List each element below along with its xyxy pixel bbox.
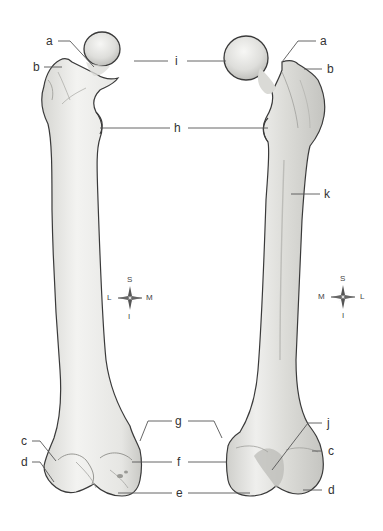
femur-diagram — [0, 0, 383, 531]
label-h: h — [174, 122, 181, 134]
compass-right-medial: M — [318, 293, 325, 301]
compass-left-lateral: L — [107, 294, 111, 302]
compass-right-superior: S — [340, 275, 345, 283]
compass-rose-right-icon — [331, 285, 355, 309]
label-a-left: a — [46, 35, 53, 47]
femoral-head-anterior — [84, 32, 120, 66]
label-b-left: b — [33, 61, 40, 73]
compass-left-inferior: I — [128, 313, 130, 321]
compass-right-lateral: L — [360, 293, 364, 301]
compass-left-medial: M — [146, 294, 153, 302]
label-i: i — [175, 55, 178, 67]
label-d-left: d — [21, 456, 28, 468]
label-e: e — [176, 487, 183, 499]
label-b-right: b — [327, 63, 334, 75]
femur-posterior — [224, 36, 325, 496]
label-f: f — [177, 456, 180, 468]
label-g: g — [175, 415, 182, 427]
label-j: j — [327, 417, 330, 429]
femur-anterior — [42, 32, 142, 496]
compass-left-superior: S — [127, 276, 132, 284]
label-k: k — [324, 188, 330, 200]
compass-right-inferior: I — [342, 312, 344, 320]
compass-rose-left-icon — [118, 286, 142, 310]
label-c-right: c — [328, 445, 334, 457]
label-c-left: c — [21, 435, 27, 447]
label-d-right: d — [328, 484, 335, 496]
label-a-right: a — [320, 35, 327, 47]
